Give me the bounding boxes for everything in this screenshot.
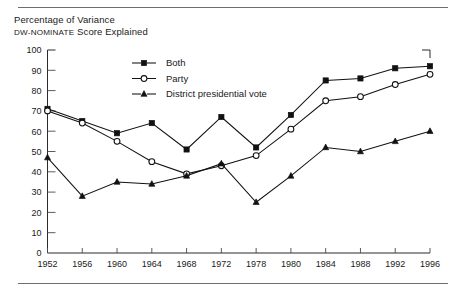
series-2-point-11-triangle-marker — [427, 128, 433, 134]
x-tick-label: 1972 — [211, 259, 231, 269]
x-tick-label: 1956 — [72, 259, 92, 269]
x-tick-label: 1988 — [350, 259, 370, 269]
y-tick-label: 50 — [31, 147, 41, 157]
series-0-point-5-square-marker — [219, 114, 224, 119]
series-0-point-11-square-marker — [427, 64, 432, 69]
x-tick-label: 1952 — [37, 259, 57, 269]
x-tick-label: 1964 — [142, 259, 162, 269]
x-tick-label: 1978 — [246, 259, 266, 269]
series-0-point-8-square-marker — [323, 78, 328, 83]
y-tick-label: 10 — [31, 228, 41, 238]
series-0-point-3-square-marker — [149, 120, 154, 125]
series-2-point-0-triangle-marker — [45, 154, 51, 160]
y-tick-label: 70 — [31, 106, 41, 116]
series-2-point-7-triangle-marker — [288, 173, 294, 179]
series-0-point-6-square-marker — [254, 145, 259, 150]
x-axis-ticks: 1952195619601964196819721978198019841988… — [37, 248, 440, 269]
series-0-point-4-square-marker — [184, 147, 189, 152]
x-tick-label: 1996 — [420, 259, 440, 269]
x-tick-label: 1980 — [281, 259, 301, 269]
legend-2-triangle-marker — [141, 91, 147, 97]
series-1-point-10-circle-marker — [392, 82, 398, 88]
series-0-point-9-square-marker — [358, 76, 363, 81]
series-district-presidential-vote — [45, 128, 434, 205]
series-party — [45, 71, 433, 176]
chart-axes — [48, 50, 431, 253]
axis-cap-top-right — [422, 50, 430, 58]
y-tick-label: 40 — [31, 167, 41, 177]
x-tick-label: 1960 — [107, 259, 127, 269]
x-tick-label: 1968 — [177, 259, 197, 269]
series-1-point-7-circle-marker — [288, 126, 294, 132]
legend-label-2: District presidential vote — [166, 88, 267, 99]
y-axis-ticks: 0102030405060708090100 — [26, 45, 55, 258]
series-0-point-7-square-marker — [288, 112, 293, 117]
series-1-point-2-circle-marker — [114, 138, 120, 144]
series-1-point-3-circle-marker — [149, 159, 155, 165]
plot-area: 0102030405060708090100195219561960196419… — [0, 0, 463, 295]
x-tick-label: 1984 — [316, 259, 336, 269]
series-both — [45, 64, 433, 152]
y-tick-label: 20 — [31, 208, 41, 218]
x-tick-label: 1992 — [385, 259, 405, 269]
y-tick-label: 90 — [31, 66, 41, 76]
series-0-point-10-square-marker — [393, 66, 398, 71]
series-line-0 — [48, 66, 431, 149]
series-1-point-6-circle-marker — [253, 153, 259, 159]
y-tick-label: 80 — [31, 86, 41, 96]
legend-0-square-marker — [141, 60, 146, 65]
y-tick-label: 30 — [31, 187, 41, 197]
series-1-point-1-circle-marker — [79, 120, 85, 126]
series-2-point-2-triangle-marker — [114, 179, 120, 185]
series-2-point-8-triangle-marker — [323, 144, 329, 150]
series-1-point-11-circle-marker — [427, 71, 433, 77]
series-1-point-9-circle-marker — [358, 94, 364, 100]
y-tick-label: 60 — [31, 127, 41, 137]
figure-container: Percentage of Variance DW-NOMINATE Score… — [0, 0, 463, 295]
y-tick-label: 0 — [36, 248, 41, 258]
series-line-2 — [48, 131, 431, 202]
axis-lines — [48, 50, 431, 253]
legend-1-circle-marker — [141, 76, 147, 82]
series-1-point-8-circle-marker — [323, 98, 329, 104]
legend-label-0: Both — [166, 57, 186, 68]
chart-legend: BothPartyDistrict presidential vote — [132, 57, 267, 99]
line-chart: 0102030405060708090100195219561960196419… — [0, 0, 463, 295]
y-tick-label: 100 — [26, 45, 41, 55]
series-1-point-0-circle-marker — [45, 108, 51, 114]
series-0-point-2-square-marker — [114, 131, 119, 136]
legend-label-1: Party — [166, 73, 188, 84]
